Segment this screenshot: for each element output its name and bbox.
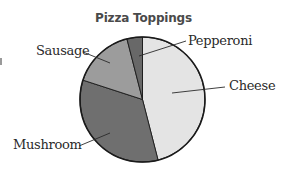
cropped-text-fragment: [0, 58, 2, 65]
slice-label-cheese: Cheese: [229, 78, 275, 93]
slice-label-mushroom: Mushroom: [13, 137, 82, 152]
slice-label-sausage: Sausage: [36, 43, 89, 58]
pie-chart: Pizza Toppings Pepperoni Sausage Cheese …: [0, 0, 285, 169]
slice-label-pepperoni: Pepperoni: [188, 33, 252, 48]
